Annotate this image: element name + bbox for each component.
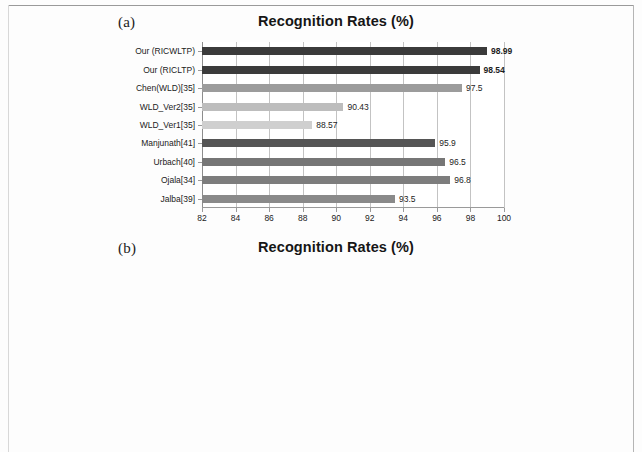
bar-value-label: 98.99 [487, 46, 512, 56]
x-tick-label-a: 88 [298, 213, 307, 223]
chart-title-b: Recognition Rates (%) [0, 239, 642, 255]
category-label: Ojala[34] [161, 175, 195, 185]
bar [202, 139, 435, 147]
bar [202, 47, 487, 55]
bar [202, 195, 395, 203]
x-tick-a [202, 208, 203, 212]
x-tick-label-a: 84 [231, 213, 240, 223]
bar-value-label: 96.8 [450, 175, 471, 185]
bar [202, 121, 312, 129]
x-tick-a [437, 208, 438, 212]
category-label: Jalba[39] [161, 194, 196, 204]
bar [202, 66, 480, 74]
x-tick-a [403, 208, 404, 212]
x-tick-a [336, 208, 337, 212]
x-tick-label-a: 86 [264, 213, 273, 223]
x-tick-a [303, 208, 304, 212]
bar-value-label: 98.54 [480, 65, 505, 75]
bar-row: Our (RICLTP)98.54 [202, 66, 504, 74]
x-tick-label-a: 90 [331, 213, 340, 223]
bar [202, 103, 343, 111]
x-tick-label-a: 82 [197, 213, 206, 223]
category-label: WLD_Ver2[35] [140, 102, 195, 112]
bar-value-label: 97.5 [462, 83, 483, 93]
bar-row: WLD_Ver1[35]88.57 [202, 121, 504, 129]
x-axis-line-a [202, 207, 504, 208]
plot-area-a: 828486889092949698100Our (RICWLTP)98.99O… [202, 42, 504, 208]
chart-title-a: Recognition Rates (%) [0, 13, 642, 29]
category-label: Chen(WLD)[35] [136, 83, 195, 93]
bar-value-label: 88.57 [312, 120, 337, 130]
x-tick-a [236, 208, 237, 212]
bar [202, 176, 450, 184]
bar [202, 84, 462, 92]
x-tick-label-a: 96 [432, 213, 441, 223]
bar-row: Urbach[40]96.5 [202, 158, 504, 166]
x-tick-a [504, 208, 505, 212]
bar-value-label: 93.5 [395, 194, 416, 204]
bar-row: Manjunath[41]95.9 [202, 139, 504, 147]
x-tick-a [269, 208, 270, 212]
chart-panel-b: (b) Recognition Rates (%) 505560657075Ou… [0, 232, 642, 452]
x-tick-label-a: 100 [497, 213, 511, 223]
bar-value-label: 90.43 [343, 102, 368, 112]
category-label: Our (RICWLTP) [135, 46, 195, 56]
bar-row: Chen(WLD)[35]97.5 [202, 84, 504, 92]
bar-value-label: 95.9 [435, 138, 456, 148]
bar [202, 158, 445, 166]
bar-row: Ojala[34]96.8 [202, 176, 504, 184]
category-label: Manjunath[41] [141, 138, 195, 148]
chart-panel-a: (a) Recognition Rates (%) 82848688909294… [0, 6, 642, 232]
x-tick-a [370, 208, 371, 212]
category-label: Our (RICLTP) [143, 65, 195, 75]
figure-page: (a) Recognition Rates (%) 82848688909294… [0, 0, 642, 452]
x-tick-label-a: 92 [365, 213, 374, 223]
category-label: WLD_Ver1[35] [140, 120, 195, 130]
x-tick-label-a: 94 [399, 213, 408, 223]
bar-row: Jalba[39]93.5 [202, 195, 504, 203]
x-tick-a [470, 208, 471, 212]
x-tick-label-a: 98 [466, 213, 475, 223]
category-label: Urbach[40] [153, 157, 195, 167]
bar-row: WLD_Ver2[35]90.43 [202, 103, 504, 111]
bar-value-label: 96.5 [445, 157, 466, 167]
bar-row: Our (RICWLTP)98.99 [202, 47, 504, 55]
